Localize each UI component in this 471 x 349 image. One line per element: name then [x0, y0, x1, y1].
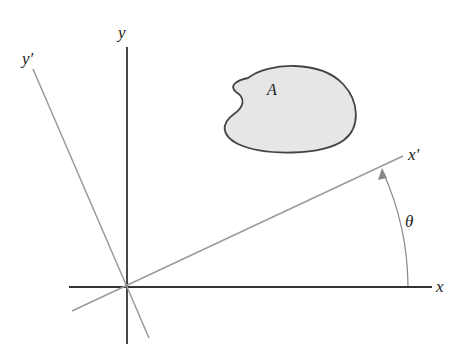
y-prime-axis	[33, 69, 149, 338]
area-a-shape	[225, 66, 356, 153]
x-axis-label: x	[435, 277, 444, 296]
angle-theta-label: θ	[405, 212, 413, 231]
x-prime-axis-label: x′	[407, 145, 420, 164]
y-axis-label: y	[116, 23, 126, 42]
axes-rotation-diagram: y y′ x′ x θ A	[0, 0, 471, 349]
arc-arrowhead-icon	[378, 168, 387, 180]
area-label: A	[266, 81, 277, 98]
y-prime-axis-label: y′	[20, 49, 34, 68]
